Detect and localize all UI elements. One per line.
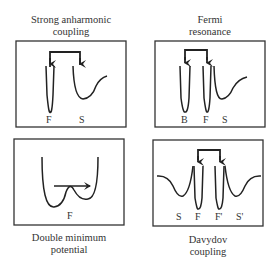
label-F-prime: F' [215,211,223,222]
diagram-canvas: F S B F S F S F F' S' [0,0,277,266]
label-S-prime: S' [236,211,244,222]
label-S: S [176,211,182,222]
label-F: F [67,210,73,221]
panel-fermi-resonance: B F S [155,41,265,127]
label-S: S [79,114,85,125]
label-F: F [195,211,201,222]
label-F: F [203,114,209,125]
panel-strong-anharmonic: F S [16,41,126,127]
panel-davydov: S F F' S' [153,140,263,226]
label-S: S [222,114,228,125]
panel-double-minimum: F [14,139,124,225]
label-B: B [181,114,188,125]
label-F: F [46,114,52,125]
